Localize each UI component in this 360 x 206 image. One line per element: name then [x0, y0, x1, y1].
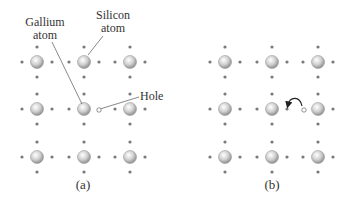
panel-a-lattice: [20, 45, 146, 173]
electron: [331, 60, 334, 63]
atom: [78, 103, 91, 116]
atom: [219, 103, 232, 116]
electron: [82, 45, 85, 48]
electron: [223, 92, 226, 95]
atom: [124, 151, 137, 164]
electron: [270, 92, 273, 95]
electron: [82, 170, 85, 173]
electron: [223, 170, 226, 173]
electron: [35, 122, 38, 125]
electron: [255, 60, 258, 63]
electron: [20, 107, 23, 110]
electron: [316, 122, 319, 125]
electron: [50, 155, 53, 158]
silicon-pointer-line: [88, 36, 103, 55]
electron: [113, 60, 116, 63]
panel-b-lattice: [208, 45, 334, 173]
electron: [50, 107, 53, 110]
electron: [270, 140, 273, 143]
atom: [124, 103, 137, 116]
electron: [97, 155, 100, 158]
atom: [312, 56, 325, 69]
atom: [124, 56, 137, 69]
electron: [208, 155, 211, 158]
electron: [285, 107, 288, 110]
atom: [31, 56, 44, 69]
caption-b: (b): [257, 178, 287, 191]
electron: [82, 122, 85, 125]
electron: [82, 140, 85, 143]
electron: [316, 45, 319, 48]
electron: [113, 155, 116, 158]
electron: [238, 60, 241, 63]
electron: [143, 155, 146, 158]
electron: [208, 60, 211, 63]
atom: [266, 56, 279, 69]
electron: [20, 155, 23, 158]
electron: [97, 60, 100, 63]
electron: [50, 60, 53, 63]
electron: [255, 155, 258, 158]
electron: [35, 140, 38, 143]
hole-a: [97, 108, 101, 112]
electron: [128, 170, 131, 173]
electron: [143, 107, 146, 110]
electron: [208, 107, 211, 110]
atom: [266, 151, 279, 164]
electron: [270, 170, 273, 173]
electron: [285, 155, 288, 158]
atom: [31, 103, 44, 116]
electron: [270, 75, 273, 78]
electron: [331, 155, 334, 158]
atom: [219, 151, 232, 164]
electron: [143, 60, 146, 63]
electron: [128, 122, 131, 125]
electron: [35, 170, 38, 173]
atom: [266, 103, 279, 116]
electron: [238, 155, 241, 158]
electron: [128, 92, 131, 95]
annotation-lines: [52, 36, 139, 112]
electron: [223, 75, 226, 78]
silicon-label-line2: atom: [88, 22, 138, 35]
electron: [238, 107, 241, 110]
electron: [35, 75, 38, 78]
gallium-label-line2: atom: [18, 29, 72, 42]
electron: [270, 45, 273, 48]
silicon-atom-label: Silicon atom: [88, 9, 138, 35]
caption-a: (a): [68, 178, 98, 191]
gallium-atom-label: Gallium atom: [18, 16, 72, 42]
electron: [113, 107, 116, 110]
electron: [67, 155, 70, 158]
electron: [270, 122, 273, 125]
atom: [312, 151, 325, 164]
panel-b-hole-motion: [288, 98, 306, 112]
hole-label: Hole: [140, 90, 172, 103]
electron: [67, 107, 70, 110]
electron: [128, 75, 131, 78]
curved-arrow-icon: [288, 98, 302, 106]
electron: [82, 75, 85, 78]
electron: [128, 45, 131, 48]
electron: [20, 60, 23, 63]
atom: [31, 151, 44, 164]
electron: [223, 45, 226, 48]
hole-b: [302, 108, 306, 112]
electron: [255, 107, 258, 110]
electron: [285, 60, 288, 63]
electron: [331, 107, 334, 110]
atom: [78, 56, 91, 69]
electron: [35, 92, 38, 95]
electron: [301, 60, 304, 63]
electron: [316, 75, 319, 78]
electron: [128, 140, 131, 143]
atom: [219, 56, 232, 69]
atom: [78, 151, 91, 164]
electron: [316, 170, 319, 173]
electron: [82, 92, 85, 95]
atom: [312, 103, 325, 116]
electron: [223, 140, 226, 143]
electron: [316, 92, 319, 95]
electron: [301, 155, 304, 158]
electron: [223, 122, 226, 125]
